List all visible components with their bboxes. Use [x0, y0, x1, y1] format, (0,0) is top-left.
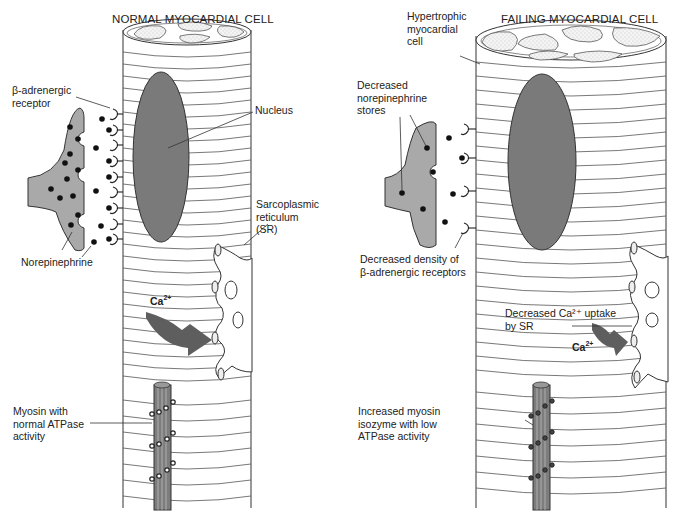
myosin-filament-failing	[529, 382, 554, 510]
failing-nerve-terminal	[385, 122, 456, 248]
calcium-symbol: Ca	[572, 341, 585, 353]
hypertrophic-cell-label: Hypertrophic myocardial cell	[407, 10, 467, 48]
normal-cell-title: NORMAL MYOCARDIAL CELL	[112, 13, 274, 25]
diagram-canvas	[0, 0, 683, 521]
calcium-symbol: Ca	[150, 295, 163, 307]
myosin-failing-label: Increased myosin isozyme with low ATPase…	[358, 405, 440, 443]
calcium-charge: 2+	[585, 340, 593, 347]
nucleus	[133, 72, 189, 242]
decreased-receptor-density-label: Decreased density of β-adrenergic recept…	[360, 253, 466, 278]
bound-norepinephrine-failing	[459, 155, 465, 161]
normal-nerve-terminal	[28, 108, 105, 251]
myosin-filament-normal	[150, 382, 175, 510]
failing-cell-title: FAILING MYOCARDIAL CELL	[501, 13, 658, 25]
sarcoplasmic-reticulum-label: Sarcoplasmic reticulum (SR)	[256, 198, 319, 236]
nucleus-failing	[508, 74, 576, 250]
beta-receptors-normal	[110, 109, 123, 245]
calcium-charge: 2+	[163, 294, 171, 301]
beta-receptors-failing	[461, 124, 476, 234]
decreased-ca-uptake-label: Decreased Ca²⁺ uptake by SR	[505, 307, 616, 332]
decreased-ne-stores-label: Decreased norepinephrine stores	[357, 79, 427, 117]
myosin-normal-label: Myosin with normal ATPase activity	[13, 405, 84, 443]
calcium-label-failing: Ca2+	[572, 340, 593, 353]
nucleus-label: Nucleus	[255, 104, 293, 117]
beta-receptor-label: β-adrenergic receptor	[12, 84, 71, 109]
bound-norepinephrine-normal	[106, 127, 112, 242]
norepinephrine-label: Norepinephrine	[21, 256, 93, 269]
calcium-label-normal: Ca2+	[150, 294, 171, 307]
